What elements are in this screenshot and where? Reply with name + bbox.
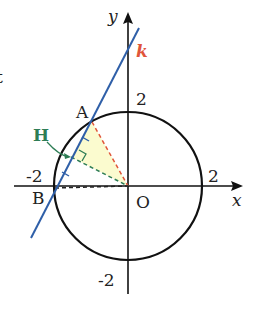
y-axis-label: y <box>107 6 118 26</box>
triangle-aoh-fill <box>71 122 128 186</box>
unit-circle-diagram: t y x O 2 -2 2 -2 A B H k <box>0 0 263 322</box>
x-axis-label: x <box>232 190 242 210</box>
tick-x-neg: -2 <box>26 166 43 186</box>
tick-x-pos: 2 <box>208 166 219 186</box>
origin-label: O <box>136 192 150 212</box>
line-k-label: k <box>136 41 148 61</box>
h-pointer-arrowhead-icon <box>64 153 71 159</box>
partial-text: t <box>0 67 3 87</box>
tick-y-pos: 2 <box>136 89 147 109</box>
point-a-label: A <box>75 102 89 122</box>
point-h-label: H <box>33 125 49 145</box>
point-b-label: B <box>32 188 45 208</box>
tick-y-neg: -2 <box>98 270 115 290</box>
